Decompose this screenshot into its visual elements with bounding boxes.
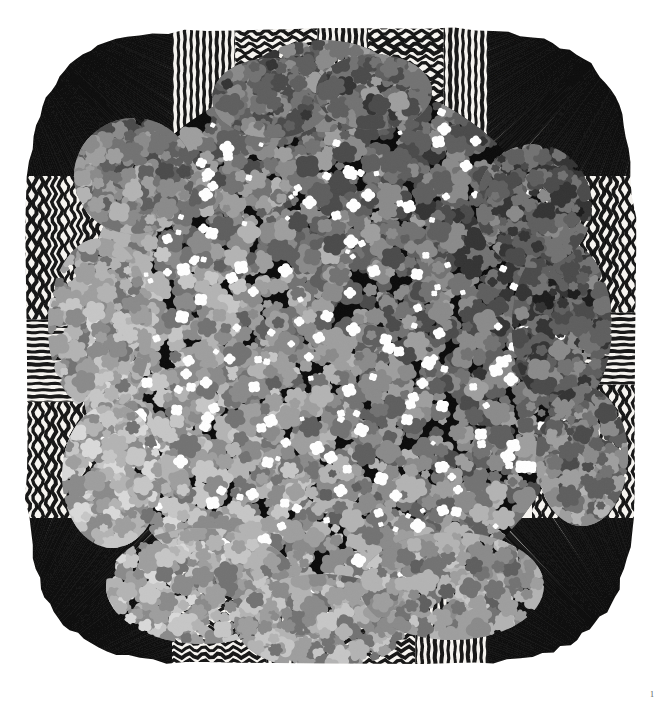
artwork-image bbox=[22, 26, 638, 668]
paper-grain-overlay bbox=[22, 26, 638, 668]
page-number: 1 bbox=[650, 690, 654, 700]
artwork-figure bbox=[22, 26, 638, 668]
document-page: 1 bbox=[0, 0, 665, 704]
